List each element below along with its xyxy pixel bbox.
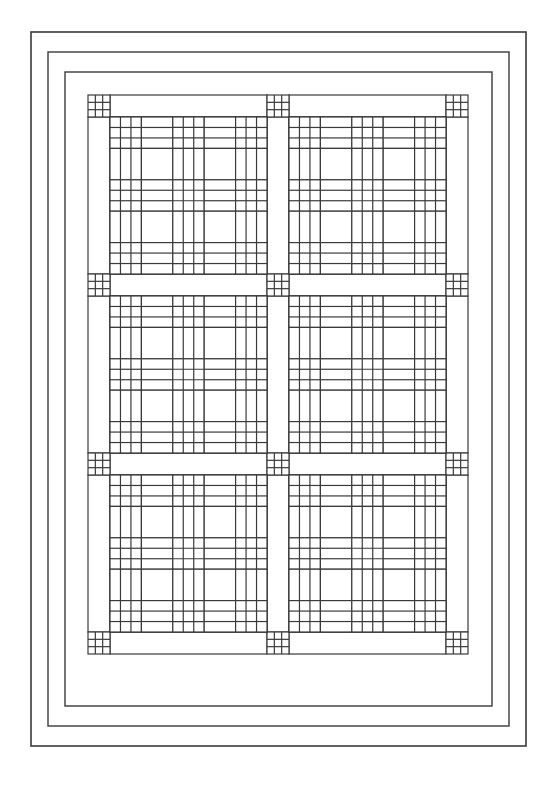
block-plain-square [383,327,414,358]
sashing-cornerstone [446,453,468,475]
block-nine-patch [173,296,204,327]
block-nine-patch [173,243,204,274]
sashing-cornerstone [446,274,468,296]
nine-patch-outline [88,274,110,296]
nine-patch-outline [352,243,383,274]
rail-outline [204,117,235,148]
sashing-strip-vertical [88,117,110,274]
sashing-strip-vertical [267,296,289,453]
block-plain-square [141,211,172,242]
rail-outline [415,148,446,179]
block-rail-vertical [289,569,320,600]
block-rail-horizontal [320,180,351,211]
block-nine-patch [236,243,267,274]
block-rail-horizontal [383,475,414,506]
sashing-cornerstone [267,632,289,654]
rail-outline [383,359,414,390]
block-plain-square [320,211,351,242]
block-rail-horizontal [320,422,351,453]
block-rail-vertical [352,569,383,600]
block-rail-horizontal [320,475,351,506]
pieced-block [110,296,267,453]
block-rail-horizontal [383,243,414,274]
block-rail-vertical [236,327,267,358]
block-nine-patch [289,422,320,453]
nine-patch-outline [267,453,289,475]
rail-outline [141,422,172,453]
block-rail-horizontal [320,296,351,327]
rail-outline [383,180,414,211]
nine-patch-outline [289,117,320,148]
rail-outline [204,296,235,327]
block-rail-horizontal [204,296,235,327]
nine-patch-outline [289,359,320,390]
block-nine-patch [173,180,204,211]
block-plain-square [383,148,414,179]
sashing-strip-vertical [446,296,468,453]
sashing-strip-horizontal [289,274,446,296]
nine-patch-outline [88,632,110,654]
block-rail-vertical [236,148,267,179]
rail-outline [289,569,320,600]
block-rail-vertical [236,569,267,600]
nine-patch-outline [173,422,204,453]
rail-outline [204,359,235,390]
rail-outline [320,601,351,632]
block-rail-vertical [236,390,267,421]
block-rail-vertical [415,148,446,179]
block-rail-vertical [289,211,320,242]
nine-patch-outline [173,538,204,569]
block-rail-horizontal [204,422,235,453]
block-nine-patch [352,475,383,506]
nine-patch-outline [289,243,320,274]
rail-outline [289,211,320,242]
block-nine-patch [289,243,320,274]
sashing-strip-vertical [88,475,110,632]
pieced-block [110,117,267,274]
sashing-cornerstone [88,632,110,654]
sashing-cornerstone [446,632,468,654]
block-plain-square [204,390,235,421]
rail-outline [320,117,351,148]
block-rail-horizontal [204,180,235,211]
sashing-cornerstone [267,95,289,117]
block-rail-horizontal [141,117,172,148]
nine-patch-outline [110,243,141,274]
nine-patch-outline [289,475,320,506]
sashing-cornerstone [88,95,110,117]
nine-patch-outline [352,538,383,569]
rail-outline [173,211,204,242]
block-nine-patch [415,538,446,569]
block-rail-vertical [110,211,141,242]
block-plain-square [320,327,351,358]
nine-patch-outline [352,359,383,390]
block-nine-patch [352,243,383,274]
block-nine-patch [352,422,383,453]
pieced-block [289,475,446,632]
nine-patch-outline [352,422,383,453]
block-plain-square [383,211,414,242]
nine-patch-outline [352,601,383,632]
rail-outline [110,211,141,242]
block-rail-horizontal [320,243,351,274]
block-rail-horizontal [204,117,235,148]
rail-outline [289,148,320,179]
nine-patch-outline [236,117,267,148]
block-nine-patch [415,296,446,327]
nine-patch-outline [110,180,141,211]
rail-outline [173,327,204,358]
block-nine-patch [110,180,141,211]
nine-patch-outline [236,296,267,327]
nine-patch-outline [289,422,320,453]
block-nine-patch [352,359,383,390]
block-nine-patch [289,180,320,211]
block-rail-horizontal [204,475,235,506]
rail-outline [110,148,141,179]
block-plain-square [141,506,172,537]
block-nine-patch [110,475,141,506]
pieced-block [110,475,267,632]
rail-outline [141,538,172,569]
block-plain-square [383,390,414,421]
block-rail-horizontal [141,359,172,390]
block-rail-vertical [110,390,141,421]
